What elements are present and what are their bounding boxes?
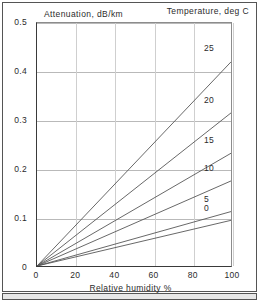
x-tick-label: 100 [224,270,239,280]
y-tick-label: 0.2 [14,164,27,174]
x-tick-label: 40 [109,270,119,280]
x-tick-label: 80 [188,270,198,280]
series-label-15: 15 [204,135,214,145]
series-lines [37,23,231,266]
chart-figure: Attenuation, dB/km Temperature, deg C 00… [0,0,261,302]
series-label-20: 20 [204,95,214,105]
gridline-vertical [233,23,234,266]
x-tick-label: 0 [33,270,38,280]
x-tick-label: 60 [149,270,159,280]
series-line-10 [37,181,231,266]
y-tick-label: 0.1 [14,213,27,223]
y-tick-label: 0 [22,262,27,272]
series-line-5 [37,212,231,266]
x-axis-title: Relative humidity % [0,283,261,293]
series-line-15 [37,153,231,266]
y-tick-label: 0.4 [14,66,27,76]
legend-title: Temperature, deg C [167,6,249,16]
series-label-10: 10 [204,163,214,173]
y-tick-label: 0.3 [14,115,27,125]
series-label-25: 25 [204,43,214,53]
x-tick-label: 20 [70,270,80,280]
series-label-0: 0 [204,203,209,213]
figure-footer-bar [2,293,257,300]
y-axis-title: Attenuation, dB/km [44,9,123,19]
y-tick-label: 0.5 [14,17,27,27]
series-line-25 [37,62,231,266]
plot-area [36,22,232,267]
